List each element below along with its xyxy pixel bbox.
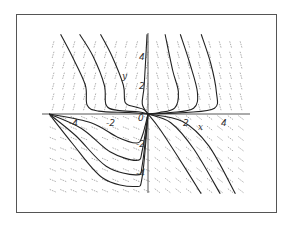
field-arrow — [50, 127, 56, 130]
field-arrow — [176, 137, 182, 141]
field-arrow — [102, 169, 108, 172]
field-arrow — [157, 52, 159, 59]
x-tick-label: 2 — [183, 118, 189, 128]
field-arrow — [115, 52, 117, 59]
field-arrow — [155, 157, 161, 161]
field-arrow — [238, 178, 244, 182]
field-arrow — [60, 148, 66, 151]
field-arrow — [50, 137, 56, 140]
field-arrow — [186, 157, 192, 161]
x-axis-label: x — [198, 122, 203, 132]
field-arrow — [157, 94, 159, 101]
field-arrow — [238, 189, 244, 193]
field-arrow — [94, 73, 96, 80]
field-arrow — [197, 168, 203, 172]
field-arrow — [81, 189, 87, 192]
field-arrow — [165, 147, 171, 151]
field-arrow — [228, 116, 234, 120]
field-arrow — [73, 94, 75, 101]
field-arrow — [207, 137, 213, 141]
field-arrow — [60, 179, 66, 182]
field-arrow — [230, 41, 232, 48]
field-arrow — [71, 158, 77, 161]
field-arrow — [228, 168, 234, 172]
field-arrow — [230, 73, 232, 80]
field-arrow — [176, 189, 182, 193]
field-arrow — [94, 41, 96, 48]
field-arrow — [125, 62, 127, 69]
field-arrow — [125, 104, 127, 111]
field-arrow — [198, 62, 200, 69]
field-arrow — [230, 62, 232, 69]
field-arrow — [167, 73, 169, 80]
field-arrow — [62, 104, 64, 111]
field-arrow — [188, 73, 190, 80]
field-arrow — [188, 41, 190, 48]
field-arrow — [228, 126, 234, 130]
phase-portrait: -4 -2 0 2 4 4 2 -2 -4 x y — [0, 0, 291, 227]
field-arrow — [230, 104, 232, 111]
field-arrow — [92, 189, 98, 192]
y-tick-label: -4 — [136, 168, 145, 178]
field-arrow — [219, 104, 221, 111]
field-arrow — [83, 104, 85, 111]
field-arrow — [238, 116, 244, 120]
field-arrow — [217, 137, 223, 141]
field-arrow — [198, 52, 200, 59]
field-arrow — [197, 178, 203, 182]
field-arrow — [92, 148, 98, 151]
field-arrow — [155, 178, 161, 182]
field-arrow — [197, 116, 203, 120]
field-arrow — [71, 179, 77, 182]
field-arrow — [198, 94, 200, 101]
field-arrow — [92, 179, 98, 182]
field-arrow — [52, 41, 54, 48]
field-arrow — [112, 158, 118, 161]
x-tick-label: -2 — [106, 118, 115, 128]
field-arrow — [83, 73, 85, 80]
field-arrow — [133, 189, 139, 192]
field-arrow — [52, 62, 54, 69]
field-arrow — [71, 137, 77, 140]
field-arrow — [62, 73, 64, 80]
field-arrow — [52, 83, 54, 90]
field-arrow — [133, 127, 139, 130]
field-arrow — [136, 62, 138, 69]
field-arrow — [219, 62, 221, 69]
field-arrow — [188, 83, 190, 90]
field-arrow — [94, 94, 96, 101]
field-arrow — [62, 41, 64, 48]
field-arrow — [228, 137, 234, 141]
field-arrow — [177, 62, 179, 69]
field-arrow — [136, 41, 138, 48]
trajectory-curve — [148, 34, 198, 114]
field-arrow — [73, 41, 75, 48]
y-axis-label: y — [121, 71, 128, 81]
x-tick-label: -4 — [69, 118, 78, 128]
field-arrow — [125, 83, 127, 90]
field-arrow — [207, 189, 213, 193]
x-tick-label: 4 — [221, 118, 227, 128]
field-arrow — [186, 147, 192, 151]
field-arrow — [62, 83, 64, 90]
field-arrow — [165, 168, 171, 172]
y-tick-label: -2 — [136, 139, 145, 149]
trajectory-curve — [148, 34, 178, 114]
field-arrow — [240, 83, 242, 90]
field-arrow — [81, 148, 87, 151]
field-arrow — [167, 62, 169, 69]
field-arrow — [102, 137, 108, 140]
field-arrow — [219, 41, 221, 48]
field-arrow — [104, 73, 106, 80]
field-arrow — [209, 94, 211, 101]
field-arrow — [112, 179, 118, 182]
field-arrow — [197, 147, 203, 151]
field-arrow — [144, 189, 150, 192]
field-arrow — [176, 178, 182, 182]
field-arrow — [155, 147, 161, 151]
field-arrow — [73, 83, 75, 90]
trajectory-curve — [49, 114, 148, 175]
field-arrow — [81, 169, 87, 172]
field-arrow — [157, 73, 159, 80]
field-arrow — [62, 62, 64, 69]
